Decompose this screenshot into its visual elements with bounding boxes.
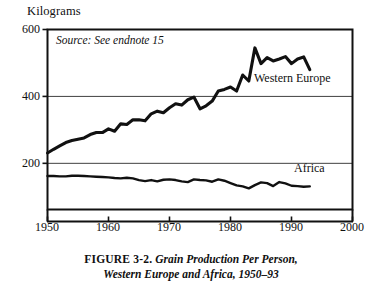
source-note: Source: See endnote 15 bbox=[56, 34, 164, 47]
caption-figure-number: FIGURE 3-2. bbox=[84, 253, 152, 265]
y-tick-label-400: 400 bbox=[10, 90, 40, 103]
series-label-western-europe: Western Europe bbox=[254, 72, 331, 85]
x-tick-label-1960: 1960 bbox=[88, 221, 128, 234]
series-line-western-europe bbox=[48, 48, 310, 153]
caption-line-2: Western Europe and Africa, 1950–93 bbox=[0, 267, 382, 282]
y-tick-label-600: 600 bbox=[10, 23, 40, 36]
figure-grain-production: Kilograms 600 400 200 1950 1960 1970 198… bbox=[0, 0, 382, 294]
x-tick-label-1970: 1970 bbox=[149, 221, 189, 234]
caption-title-line-2: Western Europe and Africa, 1950–93 bbox=[103, 268, 278, 280]
caption-title-line-1: Grain Production Per Person, bbox=[155, 253, 298, 265]
series-label-africa: Africa bbox=[294, 162, 325, 175]
plot-frame bbox=[48, 30, 353, 210]
caption-line-1: FIGURE 3-2. Grain Production Per Person, bbox=[0, 252, 382, 267]
x-tick-label-1980: 1980 bbox=[210, 221, 250, 234]
y-tick-label-200: 200 bbox=[10, 157, 40, 170]
x-tick-label-2000: 2000 bbox=[332, 221, 372, 234]
figure-caption: FIGURE 3-2. Grain Production Per Person,… bbox=[0, 252, 382, 282]
series-line-africa bbox=[48, 176, 310, 189]
x-tick-label-1950: 1950 bbox=[27, 221, 67, 234]
x-tick-label-1990: 1990 bbox=[271, 221, 311, 234]
